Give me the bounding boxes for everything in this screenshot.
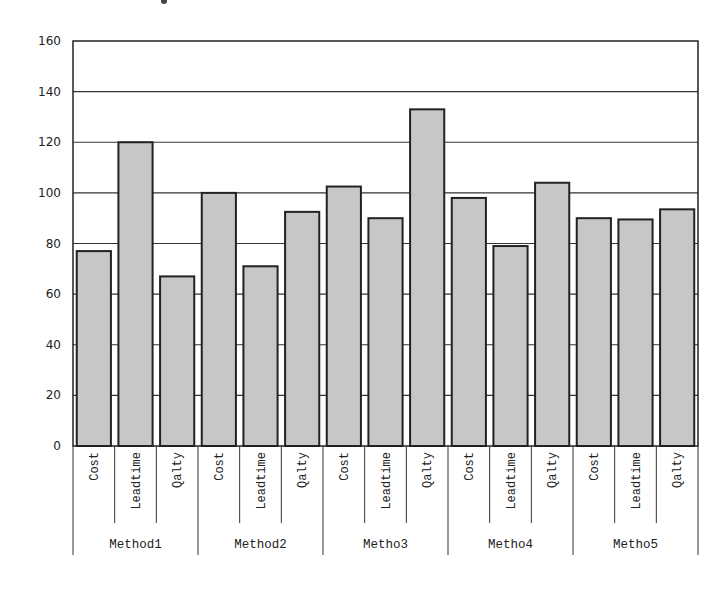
bar [452, 198, 486, 446]
y-tick-label: 20 [46, 388, 61, 402]
x-axis-categories: CostLeadtimeQaltyCostLeadtimeQaltyCostLe… [88, 446, 685, 523]
y-tick-label: 60 [46, 287, 61, 301]
bar [493, 246, 527, 446]
category-label: Leadtime [255, 452, 269, 510]
bar [535, 183, 569, 446]
category-label: Leadtime [130, 452, 144, 510]
y-tick-label: 80 [46, 237, 61, 251]
bars [77, 109, 695, 446]
category-label: Leadtime [505, 452, 519, 510]
bar [285, 212, 319, 446]
group-label: Metho4 [488, 538, 533, 552]
category-label: Leadtime [380, 452, 394, 510]
group-label: Method1 [109, 538, 162, 552]
bar [410, 109, 444, 446]
group-label: Method2 [234, 538, 287, 552]
category-label: Qalty [546, 452, 560, 488]
bar [660, 209, 694, 446]
group-label: Metho3 [363, 538, 408, 552]
category-label: Qalty [296, 452, 310, 488]
y-tick-label: 0 [53, 439, 61, 453]
y-tick-label: 160 [38, 34, 61, 48]
y-tick-label: 100 [38, 186, 61, 200]
bar [577, 218, 611, 446]
bar [243, 266, 277, 446]
category-label: Qalty [671, 452, 685, 488]
y-axis-ticks: 020406080100120140160 [38, 34, 61, 453]
category-label: Cost [588, 452, 602, 481]
y-tick-label: 120 [38, 135, 61, 149]
category-label: Cost [338, 452, 352, 481]
bar [368, 218, 402, 446]
y-tick-label: 140 [38, 85, 61, 99]
category-label: Qalty [421, 452, 435, 488]
bar [202, 193, 236, 446]
group-label: Metho5 [613, 538, 658, 552]
y-tick-label: 40 [46, 338, 61, 352]
bar [618, 219, 652, 446]
category-label: Cost [463, 452, 477, 481]
bar-chart: 020406080100120140160 CostLeadtimeQaltyC… [0, 0, 727, 589]
bar [118, 142, 152, 446]
category-label: Qalty [171, 452, 185, 488]
bar [327, 187, 361, 446]
category-label: Leadtime [630, 452, 644, 510]
category-label: Cost [213, 452, 227, 481]
bar [160, 276, 194, 446]
bar [77, 251, 111, 446]
category-label: Cost [88, 452, 102, 481]
